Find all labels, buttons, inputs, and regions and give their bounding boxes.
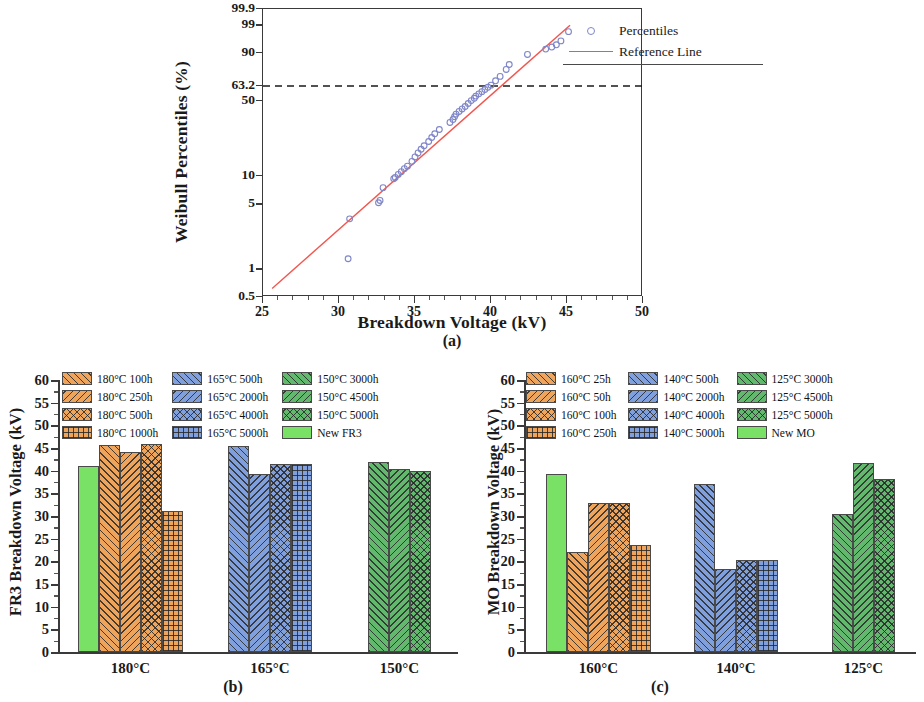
panel-c-legend: 160°C 25h160°C 50h160°C 100h160°C 250h14… [526,370,833,442]
panel-b-group-label-2: 150°C [380,660,419,677]
y-tick-mark [517,425,524,427]
panel-c-y-tick-15: 15 [501,576,516,593]
y-tick-mark [51,493,58,495]
y-minor-tick-mark [54,391,58,392]
panel-c-y-tick-0: 0 [508,644,515,661]
panel-c-y-tick-25: 25 [501,530,516,547]
legend-label: 160°C 100h [561,409,616,421]
legend-swatch-icon [737,426,767,439]
legend-label: 165°C 2000h [207,391,268,403]
y-tick-mark [51,584,58,586]
legend-swatch-icon [526,408,556,421]
y-minor-tick-mark [54,414,58,415]
legend-swatch-icon [62,426,92,439]
panel-b-y-tick-50: 50 [35,417,50,434]
legend-label: 160°C 25h [561,373,611,385]
bar-180-c-100h [99,445,120,652]
panel-a-x-tick-mark [566,296,567,303]
panel-a-x-tick-45: 45 [559,304,573,320]
y-tick-mark [517,493,524,495]
y-minor-tick-mark [520,618,524,619]
y-tick-mark [517,607,524,609]
panel-c-y-tick-20: 20 [501,553,516,570]
legend-label-percentiles: Percentiles [619,23,678,39]
legend-label: 150°C 3000h [317,373,378,385]
panel-a-x-tick-mark [338,296,339,303]
legend-item-160-c-25h: 160°C 25h [526,370,616,387]
panel-b-x-axis [58,652,458,654]
legend-item-160-c-250h: 160°C 250h [526,424,616,441]
y-minor-tick-mark [54,527,58,528]
legend-item-140-c-4000h: 140°C 4000h [628,406,724,423]
panel-a-legend: Percentiles Reference Line [563,20,763,65]
legend-swatch-icon [282,372,312,385]
legend-label-reference-line: Reference Line [619,44,702,60]
panel-c-y-tick-10: 10 [501,598,516,615]
y-tick-mark [51,539,58,541]
legend-label: 160°C 50h [561,391,611,403]
panel-c-y-tick-5: 5 [508,621,515,638]
panel-a-x-tick-mark [490,296,491,303]
legend-item-150-c-4500h: 150°C 4500h [282,388,378,405]
legend-label: 165°C 4000h [207,409,268,421]
panel-a-y-tick-99.9: 99.9 [231,0,255,16]
legend-item-150-c-3000h: 150°C 3000h [282,370,378,387]
legend-item-180-c-500h: 180°C 500h [62,406,158,423]
panel-a-y-tick-99: 99 [242,16,256,32]
panel-c-y-tick-60: 60 [501,372,516,389]
y-tick-mark [51,425,58,427]
y-minor-tick-mark [520,459,524,460]
panel-c-group-label-0: 160°C [579,660,618,677]
panel-c-y-axis [524,380,526,652]
y-minor-tick-mark [54,550,58,551]
panel-b-y-tick-5: 5 [42,621,49,638]
legend-item-180-c-1000h: 180°C 1000h [62,424,158,441]
legend-item-140-c-2000h: 140°C 2000h [628,388,724,405]
y-minor-tick-mark [54,482,58,483]
legend-swatch-icon [282,426,312,439]
legend-label: New MO [772,427,815,439]
bar-160-c-25h [567,552,588,652]
legend-swatch-icon [172,390,202,403]
panel-a-x-tick-mark [414,296,415,303]
bar-140-c-5000h [757,560,778,652]
legend-label: 140°C 5000h [663,427,724,439]
bar-160-c-50h [588,503,609,652]
legend-item-180-c-250h: 180°C 250h [62,388,158,405]
legend-item-percentiles: Percentiles [563,20,763,41]
legend-label: New FR3 [317,427,361,439]
legend-label: 180°C 100h [97,373,152,385]
legend-swatch-icon [628,426,658,439]
legend-label: 140°C 2000h [663,391,724,403]
panel-b-y-tick-40: 40 [35,462,50,479]
legend-item-160-c-100h: 160°C 100h [526,406,616,423]
legend-item-140-c-5000h: 140°C 5000h [628,424,724,441]
legend-item-165-c-4000h: 165°C 4000h [172,406,268,423]
panel-c-caption: (c) [651,678,669,696]
legend-swatch-icon [628,408,658,421]
y-tick-mark [51,652,58,654]
legend-swatch-icon [526,390,556,403]
y-tick-mark [517,403,524,405]
y-minor-tick-mark [54,618,58,619]
legend-swatch-icon [62,372,92,385]
bar-180-c-1000h [162,511,183,652]
panel-b-y-tick-45: 45 [35,440,50,457]
legend-item-150-c-5000h: 150°C 5000h [282,406,378,423]
panel-b-y-tick-30: 30 [35,508,50,525]
legend-item-165-c-5000h: 165°C 5000h [172,424,268,441]
y-minor-tick-mark [520,437,524,438]
bar-125-c-3000h [832,514,853,652]
legend-swatch-icon [628,372,658,385]
panel-c-y-tick-45: 45 [501,440,516,457]
bar-165-c-4000h [270,464,291,652]
panel-c-y-tick-30: 30 [501,508,516,525]
panel-b-fr3-bar-chart: FR3 Breakdown Voltage (kV) 180°C 100h180… [0,362,478,702]
legend-label: 140°C 500h [663,373,718,385]
panel-a-y-tick-90: 90 [242,44,256,60]
panel-c-mo-bar-chart: MO Breakdown Voltage (kV) 160°C 25h160°C… [478,362,924,702]
panel-a-y-tick-50: 50 [242,92,256,108]
legend-item-125-c-5000h: 125°C 5000h [737,406,833,423]
y-tick-mark [517,629,524,631]
panel-a-y-tick-5: 5 [248,195,255,211]
